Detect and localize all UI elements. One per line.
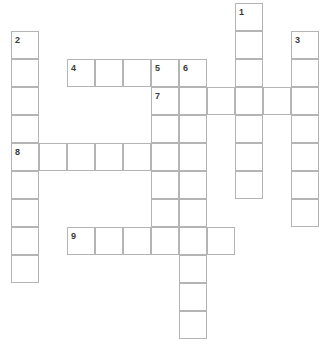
crossword-cell[interactable] [235, 143, 263, 171]
crossword-cell[interactable] [291, 171, 319, 199]
crossword-cell[interactable] [235, 115, 263, 143]
crossword-cell[interactable] [67, 59, 95, 87]
crossword-cell[interactable] [235, 3, 263, 31]
crossword-cell[interactable] [291, 199, 319, 227]
crossword-cell[interactable] [291, 143, 319, 171]
crossword-cell[interactable] [95, 227, 123, 255]
crossword-cell[interactable] [11, 31, 39, 59]
crossword-cell[interactable] [67, 227, 95, 255]
crossword-cell[interactable] [11, 143, 39, 171]
crossword-cell[interactable] [11, 59, 39, 87]
crossword-cell[interactable] [179, 311, 207, 339]
crossword-cell[interactable] [123, 59, 151, 87]
crossword-cell[interactable] [179, 143, 207, 171]
crossword-grid-layer: 123456789 [0, 0, 329, 352]
crossword-cell[interactable] [11, 171, 39, 199]
crossword-cell[interactable] [179, 87, 207, 115]
crossword-puzzle: 123456789 [0, 0, 329, 352]
crossword-cell[interactable] [291, 31, 319, 59]
crossword-cell[interactable] [11, 199, 39, 227]
crossword-cell[interactable] [151, 171, 179, 199]
crossword-cell[interactable] [179, 171, 207, 199]
crossword-cell[interactable] [151, 59, 179, 87]
crossword-cell[interactable] [207, 87, 235, 115]
crossword-cell[interactable] [151, 115, 179, 143]
crossword-cell[interactable] [263, 87, 291, 115]
crossword-cell[interactable] [151, 87, 179, 115]
crossword-cell[interactable] [11, 115, 39, 143]
crossword-cell[interactable] [11, 255, 39, 283]
crossword-cell[interactable] [235, 31, 263, 59]
crossword-cell[interactable] [151, 227, 179, 255]
crossword-cell[interactable] [291, 87, 319, 115]
crossword-cell[interactable] [179, 59, 207, 87]
crossword-cell[interactable] [11, 227, 39, 255]
crossword-cell[interactable] [123, 227, 151, 255]
crossword-cell[interactable] [235, 59, 263, 87]
crossword-cell[interactable] [235, 171, 263, 199]
crossword-cell[interactable] [151, 143, 179, 171]
crossword-cell[interactable] [235, 87, 263, 115]
crossword-cell[interactable] [39, 143, 67, 171]
crossword-cell[interactable] [67, 143, 95, 171]
crossword-cell[interactable] [291, 115, 319, 143]
crossword-cell[interactable] [151, 199, 179, 227]
crossword-cell[interactable] [179, 227, 207, 255]
crossword-cell[interactable] [291, 59, 319, 87]
crossword-cell[interactable] [207, 227, 235, 255]
crossword-cell[interactable] [179, 255, 207, 283]
crossword-cell[interactable] [179, 115, 207, 143]
crossword-cell[interactable] [123, 143, 151, 171]
crossword-cell[interactable] [11, 87, 39, 115]
crossword-cell[interactable] [95, 143, 123, 171]
crossword-cell[interactable] [95, 59, 123, 87]
crossword-cell[interactable] [179, 199, 207, 227]
crossword-cell[interactable] [179, 283, 207, 311]
